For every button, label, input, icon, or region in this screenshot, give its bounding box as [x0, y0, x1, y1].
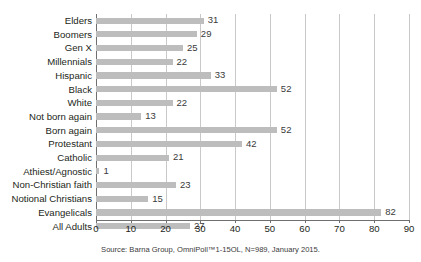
bar-value-label: 42 — [246, 137, 257, 151]
bar-row: 23 — [96, 178, 409, 192]
bar-value-label: 22 — [177, 96, 188, 110]
bar-value-label: 31 — [208, 13, 219, 27]
category-label: White — [0, 96, 92, 110]
category-label: All Adults — [0, 220, 92, 234]
bar-value-label: 15 — [152, 192, 163, 206]
x-tick-label-20: 20 — [154, 223, 178, 234]
bar-white — [96, 100, 173, 106]
bar-row: 13 — [96, 110, 409, 124]
bar-row: 22 — [96, 55, 409, 69]
bar-value-label: 22 — [177, 55, 188, 69]
category-label: Non-Christian faith — [0, 178, 92, 192]
x-tick-label-90: 90 — [397, 223, 421, 234]
bar-not-born-again — [96, 113, 141, 119]
x-tick-label-30: 30 — [188, 223, 212, 234]
category-label: Not born again — [0, 110, 92, 124]
bar-born-again — [96, 127, 277, 133]
bar-protestant — [96, 141, 242, 147]
category-label: Millennials — [0, 55, 92, 69]
bar-chart-figure: 3129252233522213524221123158227 Source: … — [0, 0, 421, 262]
bar-value-label: 1 — [103, 164, 108, 178]
bar-black — [96, 86, 277, 92]
bar-row: 52 — [96, 83, 409, 97]
bar-value-label: 52 — [281, 82, 292, 96]
x-tick-label-60: 60 — [293, 223, 317, 234]
bar-catholic — [96, 155, 169, 161]
x-axis-line — [96, 220, 410, 221]
category-label: Elders — [0, 14, 92, 28]
bar-row: 1 — [96, 165, 409, 179]
bar-gen-x — [96, 45, 183, 51]
bar-row: 31 — [96, 14, 409, 28]
bar-row: 22 — [96, 96, 409, 110]
bar-value-label: 33 — [215, 68, 226, 82]
x-tick-label-0: 0 — [84, 223, 108, 234]
x-tick-label-10: 10 — [119, 223, 143, 234]
category-label: Hispanic — [0, 69, 92, 83]
bar-value-label: 25 — [187, 41, 198, 55]
category-label: Evangelicals — [0, 206, 92, 220]
plot-area: 3129252233522213524221123158227 — [96, 14, 409, 220]
x-tick-label-40: 40 — [223, 223, 247, 234]
gridline-90 — [409, 14, 410, 220]
bar-row: 29 — [96, 28, 409, 42]
bar-non-christian-faith — [96, 182, 176, 188]
category-label: Boomers — [0, 28, 92, 42]
bar-elders — [96, 18, 204, 24]
bar-value-label: 82 — [385, 205, 396, 219]
x-tick-label-80: 80 — [362, 223, 386, 234]
bar-boomers — [96, 31, 197, 37]
category-label: Black — [0, 83, 92, 97]
bar-hispanic — [96, 72, 211, 78]
bar-value-label: 23 — [180, 178, 191, 192]
chart-title — [0, 0, 421, 3]
bar-row: 42 — [96, 137, 409, 151]
bar-athiest-agnostic — [96, 168, 99, 174]
bar-row: 21 — [96, 151, 409, 165]
bar-row: 15 — [96, 192, 409, 206]
category-label: Protestant — [0, 137, 92, 151]
bar-value-label: 21 — [173, 150, 184, 164]
x-tick-label-50: 50 — [258, 223, 282, 234]
bar-row: 33 — [96, 69, 409, 83]
category-label: Notional Christians — [0, 192, 92, 206]
bar-row: 82 — [96, 206, 409, 220]
category-label: Born again — [0, 124, 92, 138]
bar-value-label: 52 — [281, 123, 292, 137]
bar-value-label: 13 — [145, 109, 156, 123]
bar-notional-christians — [96, 196, 148, 202]
x-tick-label-70: 70 — [327, 223, 351, 234]
category-label: Athiest/Agnostic — [0, 165, 92, 179]
bar-row: 52 — [96, 124, 409, 138]
bar-value-label: 29 — [201, 27, 212, 41]
category-label: Catholic — [0, 151, 92, 165]
source-note: Source: Barna Group, OmniPoll™1-15OL, N=… — [0, 245, 421, 254]
category-label: Gen X — [0, 41, 92, 55]
bar-evangelicals — [96, 209, 381, 215]
bar-row: 25 — [96, 41, 409, 55]
bar-millennials — [96, 59, 173, 65]
